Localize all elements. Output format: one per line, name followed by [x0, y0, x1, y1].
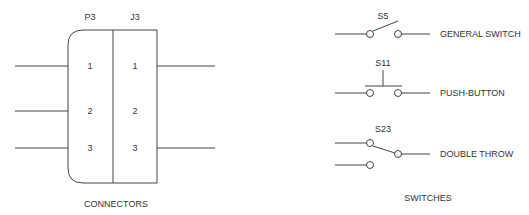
double-throw-ref: S23 — [375, 124, 391, 134]
double-throw-common-contact — [395, 151, 402, 158]
plug-label: P3 — [84, 12, 95, 22]
push-button-contact-a — [367, 90, 374, 97]
general-switch-ref: S5 — [377, 11, 388, 21]
double-throw-contact-a — [367, 140, 374, 147]
push-button-ref: S11 — [375, 58, 390, 68]
general-switch-contact-a — [367, 31, 374, 38]
connectors-caption: CONNECTORS — [84, 199, 148, 209]
push-button-contact-b — [395, 90, 402, 97]
double-throw-contact-b — [367, 162, 374, 169]
double-throw-label: DOUBLE THROW — [440, 149, 514, 159]
double-throw-symbol: S23 DOUBLE THROW — [335, 124, 514, 169]
switches-caption: SWITCHES — [404, 193, 452, 203]
plug-pin-3: 3 — [87, 143, 92, 153]
jack-label: J3 — [130, 12, 140, 22]
jack-pin-3: 3 — [132, 143, 137, 153]
general-switch-symbol: S5 GENERAL SWITCH — [335, 11, 521, 39]
general-switch-blade — [373, 21, 398, 31]
schematic-symbols-diagram: P3 J3 1 2 3 1 2 3 CONNECTORS S5 GENERAL … — [0, 0, 529, 215]
general-switch-label: GENERAL SWITCH — [440, 29, 521, 39]
plug-pin-1: 1 — [87, 61, 92, 71]
double-throw-blade — [373, 146, 395, 153]
plug-pin-2: 2 — [87, 106, 92, 116]
jack-pin-1: 1 — [132, 61, 137, 71]
push-button-symbol: S11 PUSH-BUTTON — [335, 58, 505, 98]
general-switch-contact-b — [395, 31, 402, 38]
push-button-label: PUSH-BUTTON — [440, 88, 505, 98]
jack-pin-2: 2 — [132, 106, 137, 116]
connector-group: P3 J3 1 2 3 1 2 3 CONNECTORS — [15, 12, 215, 209]
